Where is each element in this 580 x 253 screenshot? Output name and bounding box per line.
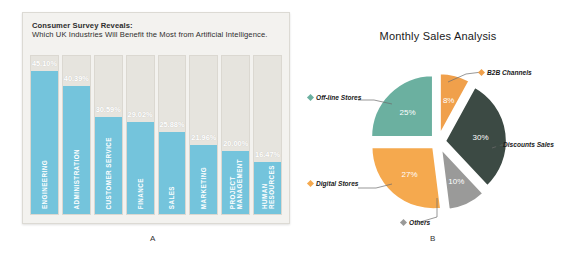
legend-diamond-icon — [400, 219, 407, 226]
bar-column: 16.47%HUMAN RESOURCES — [253, 55, 282, 215]
pie-label-text: Others — [409, 219, 430, 226]
bar-value-label: 45.10% — [31, 59, 58, 68]
bar-column: 25.88%SALES — [158, 55, 187, 215]
legend-diamond-icon — [307, 94, 314, 101]
panel-a-bar-chart: Consumer Survey Reveals: Which UK Indust… — [22, 12, 290, 224]
bar-fill: 25.88%SALES — [159, 132, 186, 214]
pie-label-text: B2B Channels — [487, 69, 532, 76]
bar-fill: 21.96%MARKETING — [190, 145, 217, 214]
bar-category-label: PROJECT MANAGEMENT — [229, 151, 243, 209]
legend-diamond-icon — [494, 141, 501, 148]
pie-label-text: Discounts Sales — [503, 141, 554, 148]
bar-value-label: 29.02% — [127, 110, 154, 119]
bar-fill: 30.59%CUSTOMER SERVICE — [95, 117, 122, 214]
bar-column: 21.96%MARKETING — [189, 55, 218, 215]
bar-value-label: 16.47% — [254, 150, 281, 159]
pie-value-label: 25% — [400, 108, 416, 117]
caption-b: B — [430, 234, 435, 243]
bar-value-label: 20.00% — [222, 139, 249, 148]
pie-label-text: Off-line Stores — [316, 94, 361, 101]
bar-column: 20.00%PROJECT MANAGEMENT — [221, 55, 250, 215]
bar-column: 29.02%FINANCE — [126, 55, 155, 215]
pie-label-text: Digital Stores — [316, 180, 359, 187]
legend-diamond-icon — [307, 180, 314, 187]
bar-category-label: MARKETING — [200, 167, 207, 209]
pie-value-label: 30% — [473, 133, 489, 142]
pie-label-b2b-channels[interactable]: B2B Channels — [479, 69, 532, 76]
bar-fill: 16.47%HUMAN RESOURCES — [254, 162, 281, 214]
bar-value-label: 21.96% — [190, 133, 217, 142]
bar-chart-plot-area: 45.10%ENGINEERING40.39%ADMINISTRATION30.… — [30, 55, 282, 215]
bar-fill: 40.39%ADMINISTRATION — [63, 86, 90, 214]
pie-label-off-line-stores[interactable]: Off-line Stores — [308, 94, 361, 101]
bar-fill: 29.02%FINANCE — [127, 122, 154, 214]
pie-slice[interactable] — [371, 75, 433, 137]
figure-root: Consumer Survey Reveals: Which UK Indust… — [0, 0, 580, 253]
legend-diamond-icon — [478, 69, 485, 76]
pie-label-others[interactable]: Others — [401, 219, 430, 226]
bar-value-label: 40.39% — [63, 74, 90, 83]
panel-b-pie-chart: Monthly Sales Analysis 8%30%10%27%25% Of… — [296, 12, 580, 224]
pie-value-label: 10% — [448, 177, 464, 186]
bar-category-label: CUSTOMER SERVICE — [105, 137, 112, 209]
bar-column: 40.39%ADMINISTRATION — [62, 55, 91, 215]
bar-category-label: SALES — [168, 186, 175, 209]
bar-value-label: 30.59% — [95, 105, 122, 114]
bar-chart-header: Consumer Survey Reveals: Which UK Indust… — [23, 13, 289, 44]
pie-label-digital-stores[interactable]: Digital Stores — [308, 180, 359, 187]
pie-value-label: 27% — [402, 170, 418, 179]
pie-chart-svg: 8%30%10%27%25% — [296, 12, 580, 224]
bar-column: 45.10%ENGINEERING — [30, 55, 59, 215]
caption-a: A — [150, 234, 155, 243]
bar-column: 30.59%CUSTOMER SERVICE — [94, 55, 123, 215]
bar-fill: 45.10%ENGINEERING — [31, 71, 58, 214]
bar-category-label: HUMAN RESOURCES — [261, 162, 275, 209]
bar-chart-title-line1: Consumer Survey Reveals: — [32, 21, 280, 30]
bar-category-label: ADMINISTRATION — [73, 149, 80, 209]
bar-value-label: 25.88% — [159, 120, 186, 129]
bar-fill: 20.00%PROJECT MANAGEMENT — [222, 151, 249, 214]
bar-category-label: FINANCE — [137, 178, 144, 209]
bar-category-label: ENGINEERING — [41, 160, 48, 209]
pie-value-label: 8% — [443, 96, 455, 105]
pie-label-discounts-sales[interactable]: Discounts Sales — [495, 141, 554, 148]
bar-chart-title-line2: Which UK Industries Will Benefit the Mos… — [32, 30, 280, 39]
